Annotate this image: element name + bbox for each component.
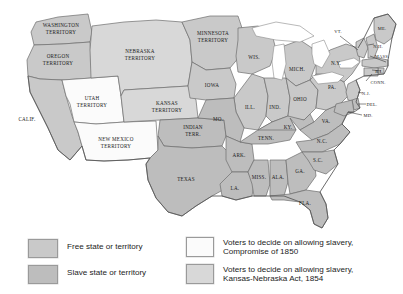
legend-entry-slave-state: Slave state or territory [28, 265, 146, 284]
label-utah-territory: UTAH [85, 95, 100, 101]
legend-swatch-compromise-1850 [186, 237, 214, 257]
label-louisiana: LA. [231, 185, 240, 191]
legend-swatch-free-state [28, 239, 58, 258]
us-map-1854: WASHINGTON TERRITORY OREGON TERRITORY UT… [0, 0, 403, 230]
label-new-hampshire: N.H. [373, 44, 383, 49]
region-massachusetts [362, 58, 388, 68]
label-kentucky: KY. [284, 124, 293, 130]
label-connecticut: CONN. [370, 80, 385, 85]
label-new-jersey: N.J. [362, 91, 370, 96]
label-wisconsin: WIS. [248, 54, 260, 60]
label-oregon-territory: OREGON [47, 53, 70, 59]
label-california: CALIF. [18, 116, 35, 122]
label-washington-territory: WASHINGTON [43, 22, 79, 28]
label-washington-territory-line2: TERRITORY [46, 29, 77, 35]
label-delaware: DEL. [367, 102, 378, 107]
label-massachusetts: MASS. [375, 54, 390, 59]
label-kansas-territory-line2: TERRITORY [152, 107, 183, 113]
legend-swatch-kansas-nebraska-1854 [186, 264, 214, 284]
label-new-mexico-territory-line2: TERRITORY [101, 143, 132, 149]
label-virginia: VA. [322, 118, 331, 124]
label-new-mexico-territory: NEW MEXICO [98, 136, 133, 142]
label-indian-territory: INDIAN [183, 124, 203, 130]
label-texas: TEXAS [177, 176, 195, 182]
legend-column-left: Free state or territory Slave state or t… [28, 239, 146, 284]
label-maryland: MD. [363, 113, 372, 118]
legend-entry-kansas-nebraska-1854: Voters to decide on allowing slavery, Ka… [186, 264, 353, 284]
label-indian-territory-line2: TERR. [185, 131, 201, 137]
label-arkansas: ARK. [232, 152, 245, 158]
legend-label-kansas-nebraska-1854: Voters to decide on allowing slavery, Ka… [223, 264, 353, 284]
region-indiana [264, 78, 290, 122]
map-svg: WASHINGTON TERRITORY OREGON TERRITORY UT… [0, 0, 403, 230]
label-north-carolina: N.C. [317, 138, 328, 144]
legend-label-compromise-1850: Voters to decide on allowing slavery, Co… [223, 237, 353, 257]
label-minnesota-territory: MINNESOTA [197, 30, 229, 36]
label-utah-territory-line2: TERRITORY [77, 102, 108, 108]
label-oregon-territory-line2: TERRITORY [43, 60, 74, 66]
label-tennessee: TENN. [258, 135, 274, 141]
label-missouri: MO. [213, 116, 223, 122]
label-georgia: GA. [295, 168, 304, 174]
label-ohio: OHIO [293, 96, 307, 102]
label-alabama: ALA. [272, 174, 285, 180]
legend-label-slave-state: Slave state or territory [67, 265, 146, 278]
label-new-york: N.Y. [331, 60, 341, 66]
label-nebraska-territory: NEBRASKA [125, 48, 155, 54]
legend-column-right: Voters to decide on allowing slavery, Co… [186, 237, 353, 284]
label-pennsylvania: PA. [328, 84, 336, 90]
label-vermont: VT. [334, 29, 342, 34]
label-nebraska-territory-line2: TERRITORY [125, 55, 156, 61]
lake-michigan [272, 44, 286, 80]
label-south-carolina: S.C. [313, 157, 323, 163]
label-indiana: IND. [269, 104, 280, 110]
label-mississippi: MISS. [252, 174, 266, 180]
legend-label-free-state: Free state or territory [67, 239, 143, 252]
legend-entry-compromise-1850: Voters to decide on allowing slavery, Co… [186, 237, 353, 257]
label-kansas-territory: KANSAS [156, 100, 178, 106]
label-illinois: ILL. [245, 104, 255, 110]
map-legend: Free state or territory Slave state or t… [0, 232, 403, 294]
legend-entry-free-state: Free state or territory [28, 239, 146, 258]
label-florida: FLA. [299, 200, 311, 206]
label-maine: ME. [378, 26, 387, 31]
label-michigan: MICH. [289, 66, 305, 72]
legend-swatch-slave-state [28, 265, 58, 284]
label-iowa: IOWA [205, 82, 219, 88]
label-rhode-island: R.I. [375, 69, 383, 74]
label-minnesota-territory-line2: TERRITORY [198, 37, 229, 43]
historical-map-page: WASHINGTON TERRITORY OREGON TERRITORY UT… [0, 0, 403, 294]
